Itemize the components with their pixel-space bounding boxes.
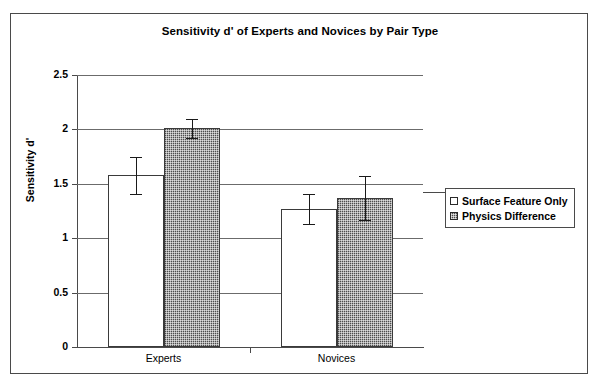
x-axis-label-novices: Novices <box>287 352 387 364</box>
chart-legend: Surface Feature Only Physics Difference <box>445 188 575 228</box>
y-axis-tick-label: 2.5 <box>11 68 68 80</box>
error-bar-cap <box>186 119 198 120</box>
y-axis-tick-label: 2 <box>11 122 68 134</box>
light-square-icon <box>450 197 458 205</box>
error-bar-cap <box>186 138 198 139</box>
error-bar-whisker <box>309 194 310 224</box>
error-bar-cap <box>359 220 371 221</box>
bar-experts-surface-feature-only <box>108 175 164 347</box>
error-bar-whisker <box>192 119 193 139</box>
plot-area <box>77 75 423 347</box>
y-axis-tick-label: 0.5 <box>11 286 68 298</box>
legend-item-surface-feature-only[interactable]: Surface Feature Only <box>450 193 568 208</box>
legend-item-label: Physics Difference <box>462 210 556 222</box>
legend-item-label: Surface Feature Only <box>462 195 568 207</box>
y-axis-title: Sensitivity d' <box>24 125 36 215</box>
error-bar-whisker <box>136 157 137 194</box>
legend-leader-line <box>423 192 445 193</box>
error-bar-cap <box>303 224 315 225</box>
bar-experts-physics-difference <box>164 128 220 347</box>
chart-canvas: Sensitivity d' of Experts and Novices by… <box>0 0 601 387</box>
error-bar-cap <box>303 194 315 195</box>
x-axis-tick-mark <box>250 347 251 353</box>
bar-novices-surface-feature-only <box>281 209 337 347</box>
x-axis-label-experts: Experts <box>114 352 214 364</box>
legend-item-physics-difference[interactable]: Physics Difference <box>450 208 568 223</box>
dark-square-icon <box>450 212 458 220</box>
error-bar-cap <box>130 194 142 195</box>
y-axis-tick-label: 1 <box>11 231 68 243</box>
chart-title: Sensitivity d' of Experts and Novices by… <box>11 25 589 37</box>
y-axis-tick-label: 1.5 <box>11 177 68 189</box>
error-bar-whisker <box>365 176 366 220</box>
y-axis-tick-mark <box>72 347 77 348</box>
chart-plot-frame: Sensitivity d' of Experts and Novices by… <box>10 13 588 374</box>
y-axis-tick-label: 0 <box>11 340 68 352</box>
error-bar-cap <box>359 176 371 177</box>
error-bar-cap <box>130 157 142 158</box>
